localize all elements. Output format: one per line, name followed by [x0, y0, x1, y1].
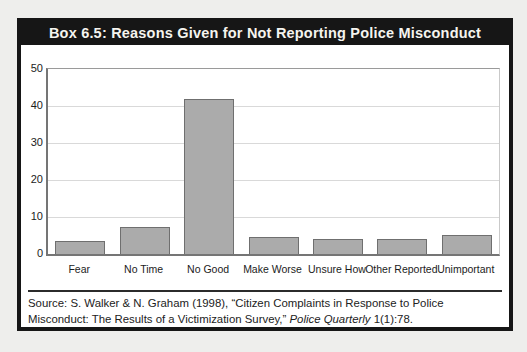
y-tick-label-10: 10: [21, 210, 43, 222]
bar-other-reported: [377, 239, 427, 254]
x-tick-label-other-reported: Other Reported: [365, 263, 437, 275]
x-tick-label-unimportant: Unimportant: [437, 263, 494, 275]
source-note: Source: S. Walker & N. Graham (1998), “C…: [28, 296, 504, 327]
bar-unsure-how: [313, 239, 363, 254]
x-tick-label-fear: Fear: [68, 263, 90, 275]
x-tick-label-no-time: No Time: [124, 263, 163, 275]
y-tick-label-30: 30: [21, 136, 43, 148]
source-journal-name: Police Quarterly: [289, 313, 370, 325]
bar-no-time: [120, 227, 170, 254]
gridline-20: [48, 180, 499, 181]
x-tick-label-make-worse: Make Worse: [243, 263, 302, 275]
source-citation-pages: 1(1):78.: [371, 313, 413, 325]
gridline-10: [48, 217, 499, 218]
x-tick-label-no-good: No Good: [187, 263, 229, 275]
bar-no-good: [184, 99, 234, 254]
source-divider: [28, 290, 502, 292]
y-tick-label-40: 40: [21, 99, 43, 111]
bar-unimportant: [442, 235, 492, 254]
gridline-30: [48, 143, 499, 144]
y-tick-label-50: 50: [21, 62, 43, 74]
figure-title: Box 6.5: Reasons Given for Not Reporting…: [21, 22, 509, 45]
x-tick-label-unsure-how: Unsure How: [308, 263, 366, 275]
y-tick-label-20: 20: [21, 173, 43, 185]
bar-chart-plot-area: [46, 68, 500, 256]
bar-fear: [55, 241, 105, 254]
y-tick-label-0: 0: [21, 247, 43, 259]
gridline-40: [48, 106, 499, 107]
bar-make-worse: [249, 237, 299, 254]
figure-box: Box 6.5: Reasons Given for Not Reporting…: [17, 18, 513, 331]
